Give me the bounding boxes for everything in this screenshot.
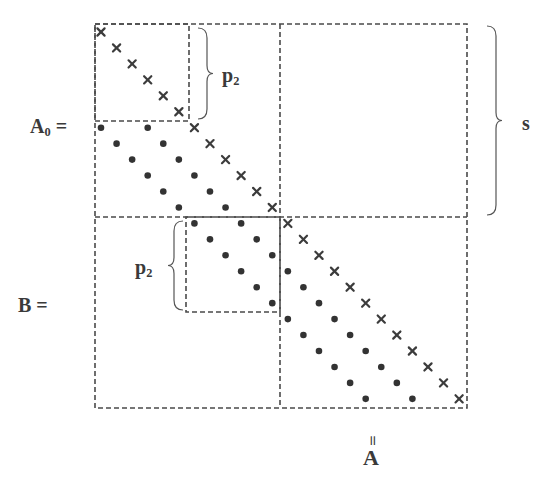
- dot-marker: [316, 348, 323, 355]
- dot-marker: [238, 268, 245, 275]
- cross-marker: [331, 268, 338, 275]
- cross-marker: [393, 331, 400, 338]
- dot-marker: [331, 364, 338, 371]
- dot-marker: [176, 204, 183, 211]
- cross-marker: [300, 236, 307, 243]
- dot-marker: [362, 396, 369, 403]
- dot-marker: [362, 348, 369, 355]
- label-b: B =: [18, 294, 48, 317]
- dot-marker: [300, 332, 307, 339]
- dot-marker: [207, 188, 214, 195]
- cross-marker: [347, 284, 354, 291]
- inner-lower-block: [186, 217, 280, 312]
- cross-marker: [222, 156, 229, 163]
- cross-marker: [315, 252, 322, 259]
- dot-marker: [160, 140, 167, 147]
- cross-marker: [456, 395, 463, 402]
- dot-marker: [191, 220, 198, 227]
- dot-marker: [316, 300, 323, 307]
- cross-marker: [253, 188, 260, 195]
- cross-marker: [191, 124, 198, 131]
- dot-marker: [378, 364, 385, 371]
- cross-marker: [144, 76, 151, 83]
- label-a: A: [363, 445, 379, 471]
- braces: [168, 26, 502, 310]
- label-p2-bottom: p2: [135, 256, 152, 281]
- dot-marker: [269, 252, 276, 259]
- cross-marker: [129, 60, 136, 67]
- dot-marker: [176, 156, 183, 163]
- label-s: s: [522, 112, 530, 135]
- dot-marker: [331, 316, 338, 323]
- cross-marker: [409, 347, 416, 354]
- top-left-block: [95, 24, 189, 121]
- dot-marker: [191, 172, 198, 179]
- cross-marker: [113, 44, 120, 51]
- dot-marker: [98, 124, 105, 131]
- dot-marker: [409, 396, 416, 403]
- dot-marker: [285, 268, 292, 275]
- dot-marker: [113, 140, 120, 147]
- cross-marker: [238, 172, 245, 179]
- cross-marker: [284, 220, 291, 227]
- cross-marker: [97, 28, 104, 35]
- dot-marker: [144, 172, 151, 179]
- dot-marker: [129, 156, 136, 163]
- cross-marker: [440, 379, 447, 386]
- label-p2-top: p2: [222, 64, 239, 89]
- matrix-diagram: [0, 0, 553, 489]
- dot-marker: [269, 300, 276, 307]
- label-a0: A0 =: [30, 115, 67, 140]
- cross-marker: [206, 140, 213, 147]
- dot-marker: [222, 252, 229, 259]
- cross-marker: [269, 204, 276, 211]
- brace-p2-top: [198, 28, 213, 119]
- cross-marker: [424, 363, 431, 370]
- dot-marker: [222, 204, 229, 211]
- dot-marker: [285, 316, 292, 323]
- dot-marker: [144, 124, 151, 131]
- dot-marker: [253, 236, 260, 243]
- brace-s: [487, 26, 502, 215]
- cross-marker: [362, 300, 369, 307]
- dot-marker: [347, 380, 354, 387]
- brace-p2-bottom: [168, 221, 183, 310]
- dot-marker: [160, 188, 167, 195]
- cross-marker: [160, 92, 167, 99]
- dot-marker: [394, 380, 401, 387]
- cross-marker: [378, 316, 385, 323]
- dot-marker: [347, 332, 354, 339]
- dot-marker: [300, 284, 307, 291]
- dot-marker: [207, 236, 214, 243]
- cross-marker: [175, 108, 182, 115]
- dot-marker: [253, 284, 260, 291]
- dot-marker: [238, 220, 245, 227]
